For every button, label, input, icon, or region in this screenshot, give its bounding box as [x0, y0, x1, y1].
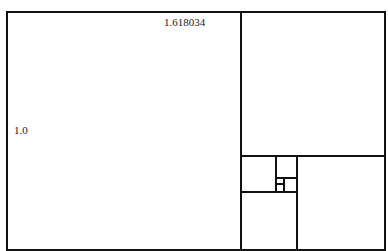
height-label: 1.0	[14, 124, 28, 136]
outer-golden-rectangle	[7, 12, 385, 250]
width-label: 1.618034	[164, 16, 206, 28]
golden-rectangle-diagram: 1.618034 1.0	[0, 0, 388, 251]
